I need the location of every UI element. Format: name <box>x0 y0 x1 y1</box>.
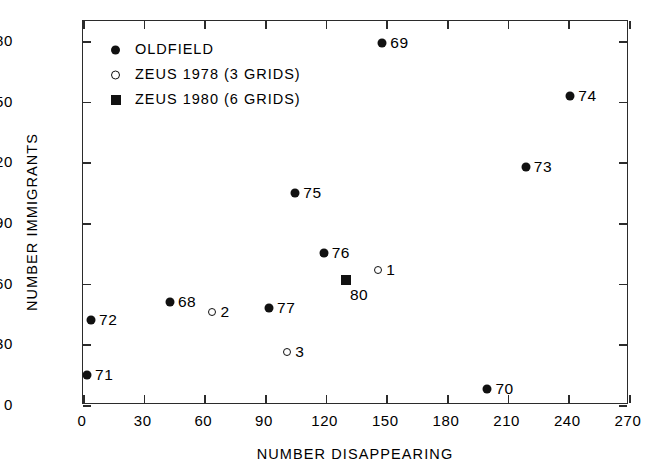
y-axis-title: NUMBER IMMIGRANTS <box>24 102 40 342</box>
x-tick-label: 120 <box>295 412 355 429</box>
y-tick-label: 0 <box>0 396 13 413</box>
y-tick-right <box>619 223 627 225</box>
data-point-label: 71 <box>95 366 113 384</box>
legend-item-label: ZEUS 1978 (3 GRIDS) <box>135 62 301 87</box>
y-tick-right <box>619 405 627 407</box>
x-tick-label: 240 <box>537 412 597 429</box>
x-tick-label: 180 <box>416 412 476 429</box>
x-tick-top <box>447 21 449 29</box>
x-tick-top <box>629 21 631 29</box>
data-point-label: 72 <box>99 311 117 329</box>
x-axis-title: NUMBER DISAPPEARING <box>82 446 628 462</box>
x-tick-label: 90 <box>234 412 294 429</box>
x-tick-top <box>204 21 206 29</box>
data-point[interactable] <box>83 370 92 379</box>
data-point-label: 80 <box>350 286 368 304</box>
data-point[interactable] <box>341 275 351 285</box>
data-point-label: 73 <box>534 158 552 176</box>
x-tick <box>447 395 449 403</box>
legend-item-label: ZEUS 1980 (6 GRIDS) <box>135 87 301 112</box>
y-tick-label: 30 <box>0 335 13 352</box>
x-tick-label: 0 <box>52 412 112 429</box>
chart-legend: OLDFIELDZEUS 1978 (3 GRIDS)ZEUS 1980 (6 … <box>111 37 401 112</box>
data-point-label: 74 <box>578 87 596 105</box>
y-tick <box>83 162 91 164</box>
y-tick-label: 120 <box>0 153 13 170</box>
legend-item-label: OLDFIELD <box>135 37 214 62</box>
legend-item[interactable]: ZEUS 1980 (6 GRIDS) <box>111 87 401 112</box>
data-point[interactable] <box>291 188 300 197</box>
y-tick-label: 150 <box>0 92 13 109</box>
data-point-label: 75 <box>303 184 321 202</box>
y-tick-label: 60 <box>0 274 13 291</box>
y-tick-right <box>619 102 627 104</box>
data-point-label: 2 <box>220 303 229 321</box>
data-point-label: 68 <box>178 293 196 311</box>
x-tick-label: 210 <box>477 412 537 429</box>
data-point[interactable] <box>374 266 382 274</box>
data-point[interactable] <box>165 297 174 306</box>
data-point[interactable] <box>283 348 291 356</box>
y-tick-label: 90 <box>0 214 13 231</box>
y-tick <box>83 284 91 286</box>
x-tick <box>144 395 146 403</box>
x-tick-label: 30 <box>113 412 173 429</box>
data-point-label: 70 <box>495 380 513 398</box>
y-tick <box>83 41 91 43</box>
open-circle-icon <box>111 70 120 79</box>
x-tick <box>326 395 328 403</box>
x-tick-label: 150 <box>355 412 415 429</box>
x-tick <box>568 395 570 403</box>
legend-item[interactable]: OLDFIELD <box>111 37 401 62</box>
x-tick-top <box>144 21 146 29</box>
x-tick-top <box>326 21 328 29</box>
data-point[interactable] <box>483 384 492 393</box>
legend-item[interactable]: ZEUS 1978 (3 GRIDS) <box>111 62 401 87</box>
x-tick-top <box>386 21 388 29</box>
y-tick <box>83 223 91 225</box>
x-tick <box>629 395 631 403</box>
x-tick-top <box>568 21 570 29</box>
x-tick-top <box>265 21 267 29</box>
x-tick <box>386 395 388 403</box>
y-tick-right <box>619 162 627 164</box>
data-point-label: 3 <box>295 343 304 361</box>
data-point[interactable] <box>319 249 328 258</box>
filled-square-icon <box>111 95 121 105</box>
data-point[interactable] <box>265 303 274 312</box>
data-point-label: 77 <box>277 299 295 317</box>
data-point-label: 1 <box>386 261 395 279</box>
y-tick <box>83 102 91 104</box>
y-tick-label: 180 <box>0 32 13 49</box>
data-point[interactable] <box>566 91 575 100</box>
x-tick <box>83 395 85 403</box>
y-tick-right <box>619 344 627 346</box>
data-point[interactable] <box>208 308 216 316</box>
data-point-label: 76 <box>332 244 350 262</box>
filled-circle-icon <box>111 45 120 54</box>
y-tick-right <box>619 284 627 286</box>
scatter-chart-figure: NUMBER IMMIGRANTS NUMBER DISAPPEARING 69… <box>0 0 655 474</box>
x-tick <box>204 395 206 403</box>
x-tick-top <box>508 21 510 29</box>
x-tick-label: 60 <box>173 412 233 429</box>
data-point[interactable] <box>521 162 530 171</box>
plot-area: 6974737576687772717012380 OLDFIELDZEUS 1… <box>82 20 628 404</box>
x-tick-label: 270 <box>598 412 655 429</box>
y-tick-right <box>619 41 627 43</box>
data-point[interactable] <box>87 316 96 325</box>
x-tick <box>265 395 267 403</box>
y-tick <box>83 344 91 346</box>
x-tick-top <box>83 21 85 29</box>
y-tick <box>83 405 91 407</box>
